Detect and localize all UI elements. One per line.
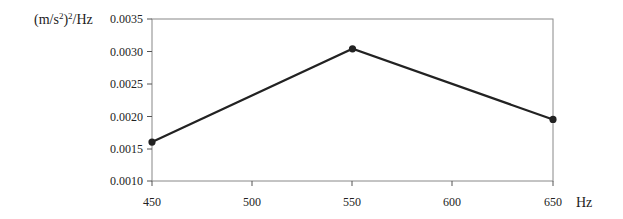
y-tick-label: 0.0010 bbox=[110, 174, 143, 188]
x-tick-label: 600 bbox=[443, 195, 461, 209]
x-axis bbox=[152, 181, 553, 186]
x-tick-label: 650 bbox=[544, 195, 562, 209]
y-tick-label: 0.0020 bbox=[110, 110, 143, 124]
y-tick-label: 0.0030 bbox=[110, 45, 143, 59]
y-tick-label: 0.0015 bbox=[110, 142, 143, 156]
x-axis-unit-label: Hz bbox=[576, 195, 592, 210]
psd-chart: 0.0035 0.0030 0.0025 0.0020 0.0015 0.001… bbox=[0, 0, 623, 219]
x-tick-label: 550 bbox=[343, 195, 361, 209]
y-axis bbox=[147, 19, 152, 181]
y-tick-label: 0.0035 bbox=[110, 12, 143, 26]
x-tick-label: 500 bbox=[243, 195, 261, 209]
data-point-marker bbox=[549, 116, 556, 123]
data-point-markers bbox=[148, 45, 556, 146]
y-axis-unit-label: (m/s2)2/Hz bbox=[34, 11, 93, 28]
data-series-line bbox=[152, 49, 553, 142]
plot-area bbox=[152, 19, 553, 181]
y-tick-label: 0.0025 bbox=[110, 77, 143, 91]
x-tick-label: 450 bbox=[143, 195, 161, 209]
data-point-marker bbox=[349, 45, 356, 52]
data-point-marker bbox=[148, 139, 155, 146]
